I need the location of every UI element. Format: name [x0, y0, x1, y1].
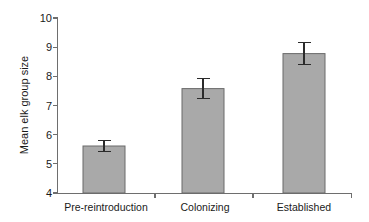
x-category-label-pre-reintroduction: Pre-reintroduction — [64, 201, 148, 213]
bar-colonizing — [182, 89, 224, 193]
bar-pre-reintroduction — [83, 146, 125, 193]
chart-figure: Mean elk group size 10 9 8 7 6 5 4 — [0, 0, 369, 222]
x-category-label-established: Established — [277, 201, 331, 213]
y-tick-label-6: 6 — [46, 129, 52, 141]
bar-chart-svg: Mean elk group size 10 9 8 7 6 5 4 — [0, 0, 369, 222]
y-tick-label-9: 9 — [46, 41, 52, 53]
y-tick-label-4: 4 — [46, 187, 52, 199]
y-tick-label-7: 7 — [46, 100, 52, 112]
x-category-label-colonizing: Colonizing — [180, 201, 229, 213]
y-tick-label-5: 5 — [46, 158, 52, 170]
y-tick-label-8: 8 — [46, 70, 52, 82]
bar-established — [283, 54, 325, 193]
y-axis-title: Mean elk group size — [18, 56, 30, 154]
y-tick-label-10: 10 — [40, 12, 52, 24]
